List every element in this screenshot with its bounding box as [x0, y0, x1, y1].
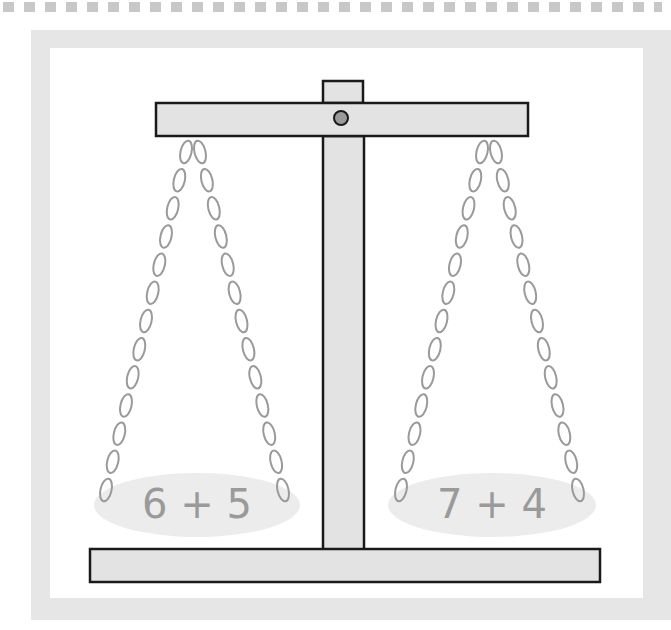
chain-link — [427, 337, 443, 362]
chain-link — [495, 168, 511, 193]
chain-link — [556, 421, 572, 446]
base — [90, 549, 600, 582]
right-pan-label: 7 + 4 — [437, 481, 547, 527]
chain-link — [158, 224, 174, 249]
chain-link — [502, 196, 518, 221]
chain-link — [536, 337, 552, 362]
chain-link — [261, 421, 277, 446]
chain-link — [563, 449, 579, 474]
chain-link — [206, 196, 222, 221]
chain-link — [227, 280, 243, 305]
chain-link — [447, 252, 463, 277]
chain-link — [247, 365, 263, 390]
pole — [323, 136, 364, 550]
chain-link — [508, 224, 524, 249]
chain-link — [192, 140, 208, 165]
chain-link — [420, 365, 436, 390]
chain-link — [131, 337, 147, 362]
pole-top-cap — [323, 81, 363, 103]
chain-link — [178, 140, 194, 165]
chain-link — [105, 449, 121, 474]
chain-link — [543, 365, 559, 390]
chain-link — [474, 140, 490, 165]
chain-link — [440, 280, 456, 305]
chain-link — [433, 309, 449, 334]
chain-link — [240, 337, 256, 362]
chain-link — [125, 365, 141, 390]
chain-link — [406, 421, 422, 446]
chain-link — [488, 140, 504, 165]
chain-link — [138, 309, 154, 334]
chain-link — [165, 196, 181, 221]
left-pan-label: 6 + 5 — [142, 481, 252, 527]
pivot-icon — [334, 111, 348, 125]
chain-link — [213, 224, 229, 249]
chain-link — [467, 168, 483, 193]
chain-link — [460, 196, 476, 221]
chain-link — [515, 252, 531, 277]
chain-link — [413, 393, 429, 418]
chain-link — [529, 309, 545, 334]
chain-link — [220, 252, 236, 277]
chain-link — [118, 393, 134, 418]
chain-link — [254, 393, 270, 418]
chain-link — [522, 280, 538, 305]
chain-link — [171, 168, 187, 193]
chain-link — [199, 168, 215, 193]
chain-link — [268, 449, 284, 474]
chain-link — [454, 224, 470, 249]
chain-link — [111, 421, 127, 446]
chain-link — [233, 309, 249, 334]
chain-link — [400, 449, 416, 474]
chain-link — [151, 252, 167, 277]
chain-link — [549, 393, 565, 418]
chain-link — [145, 280, 161, 305]
